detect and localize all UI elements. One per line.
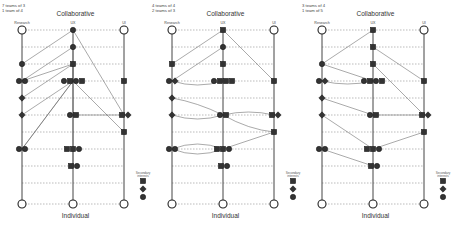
column-label-ux: UX xyxy=(71,21,76,25)
bottom-endpoint-icon xyxy=(318,200,326,208)
circle-node-icon xyxy=(376,146,381,151)
square-node-icon xyxy=(229,78,234,83)
diamond-node-icon xyxy=(322,78,328,84)
square-node-icon xyxy=(217,78,222,83)
diamond-node-icon xyxy=(19,95,25,101)
connection-line xyxy=(373,132,424,149)
square-node-icon xyxy=(421,78,426,83)
diamond-node-icon xyxy=(275,112,281,118)
circle-node-icon xyxy=(220,44,225,49)
bottom-endpoint-icon xyxy=(168,200,176,208)
top-endpoint-icon xyxy=(420,26,428,34)
square-node-icon xyxy=(70,61,75,66)
top-endpoint-icon xyxy=(270,26,278,34)
legend-circle-icon xyxy=(440,194,445,199)
circle-node-icon xyxy=(67,112,72,117)
legend-square-icon xyxy=(140,178,145,183)
diamond-node-icon xyxy=(125,112,131,118)
circle-node-icon xyxy=(16,78,21,83)
collaborative-label: Collaborative xyxy=(0,10,151,17)
square-node-icon xyxy=(269,112,274,117)
circle-node-icon xyxy=(374,163,379,168)
team-panel-3: 3 teams of 4 1 team of 5 Collaborative I… xyxy=(300,0,451,228)
circle-node-icon xyxy=(76,146,81,151)
legend-circle-icon xyxy=(140,194,145,199)
column-label-research: Research xyxy=(164,21,179,25)
connection-line xyxy=(73,81,124,132)
square-node-icon xyxy=(220,61,225,66)
column-label-research: Research xyxy=(14,21,29,25)
connection-line xyxy=(172,115,223,119)
legend-diamond-icon xyxy=(140,186,146,192)
top-endpoint-icon xyxy=(18,26,26,34)
circle-node-icon xyxy=(319,61,324,66)
circle-node-icon xyxy=(22,78,27,83)
connection-line xyxy=(73,30,124,115)
circle-node-icon xyxy=(61,78,66,83)
bottom-endpoint-icon xyxy=(420,200,428,208)
square-node-icon xyxy=(364,146,369,151)
connection-line xyxy=(322,98,373,115)
circle-node-icon xyxy=(16,146,21,151)
bottom-endpoint-icon xyxy=(18,200,26,208)
circle-node-icon xyxy=(224,163,229,168)
square-node-icon xyxy=(223,78,228,83)
bottom-endpoint-icon xyxy=(219,200,227,208)
connection-line xyxy=(373,64,424,115)
square-node-icon xyxy=(121,129,126,134)
square-node-icon xyxy=(367,78,372,83)
top-endpoint-icon xyxy=(120,26,128,34)
connection-line xyxy=(172,98,223,115)
team-panel-2: 4 teams of 4 2 teams of 3 Collaborative … xyxy=(150,0,301,228)
square-node-icon xyxy=(218,163,223,168)
square-node-icon xyxy=(214,146,219,151)
ux-hub-node-icon xyxy=(370,27,375,32)
network-graph xyxy=(150,0,301,228)
diamond-node-icon xyxy=(425,112,431,118)
circle-node-icon xyxy=(73,78,78,83)
square-node-icon xyxy=(373,112,378,117)
column-label-ux: UX xyxy=(221,21,226,25)
circle-node-icon xyxy=(22,146,27,151)
network-graph xyxy=(0,0,151,228)
column-label-ux: UX xyxy=(371,21,376,25)
top-endpoint-icon xyxy=(318,26,326,34)
diamond-node-icon xyxy=(319,112,325,118)
ux-hub-node-icon xyxy=(70,27,75,32)
circle-node-icon xyxy=(211,78,216,83)
square-node-icon xyxy=(169,61,174,66)
square-node-icon xyxy=(119,112,124,117)
legend-circle-icon xyxy=(290,194,295,199)
circle-node-icon xyxy=(19,61,24,66)
diamond-node-icon xyxy=(169,112,175,118)
legend-square-icon xyxy=(290,178,295,183)
column-label-ui: UI xyxy=(122,21,126,25)
circle-node-icon xyxy=(373,78,378,83)
legend-square-icon xyxy=(440,178,445,183)
connection-line xyxy=(223,115,274,132)
square-node-icon xyxy=(370,146,375,151)
collaborative-label: Collaborative xyxy=(150,10,301,17)
bottom-endpoint-icon xyxy=(120,200,128,208)
circle-node-icon xyxy=(316,78,321,83)
top-endpoint-icon xyxy=(168,26,176,34)
square-node-icon xyxy=(79,78,84,83)
column-label-research: Research xyxy=(314,21,329,25)
connection-line xyxy=(223,132,274,149)
individual-label: Individual xyxy=(300,212,451,219)
column-label-ui: UI xyxy=(272,21,276,25)
individual-label: Individual xyxy=(150,212,301,219)
circle-node-icon xyxy=(217,112,222,117)
team-panel-1: 7 teams of 3 1 team of 4 Collaborative I… xyxy=(0,0,151,228)
square-node-icon xyxy=(271,129,276,134)
circle-node-icon xyxy=(166,146,171,151)
circle-node-icon xyxy=(367,112,372,117)
ux-hub-node-icon xyxy=(220,27,225,32)
network-graph xyxy=(300,0,451,228)
individual-label: Individual xyxy=(0,212,151,219)
square-node-icon xyxy=(370,44,375,49)
legend-diamond-icon xyxy=(290,186,296,192)
diamond-node-icon xyxy=(319,95,325,101)
square-node-icon xyxy=(64,146,69,151)
circle-node-icon xyxy=(70,44,75,49)
